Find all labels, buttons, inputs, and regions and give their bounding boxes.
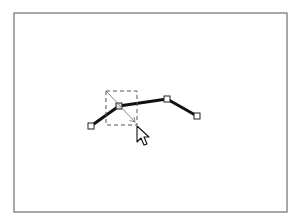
vertex-handle[interactable] xyxy=(116,103,122,109)
vertex-handle[interactable] xyxy=(88,123,94,129)
vertex-handle[interactable] xyxy=(194,113,200,119)
vertex-handle[interactable] xyxy=(164,96,170,102)
canvas-frame xyxy=(14,13,287,212)
drawing-canvas[interactable] xyxy=(0,0,305,220)
